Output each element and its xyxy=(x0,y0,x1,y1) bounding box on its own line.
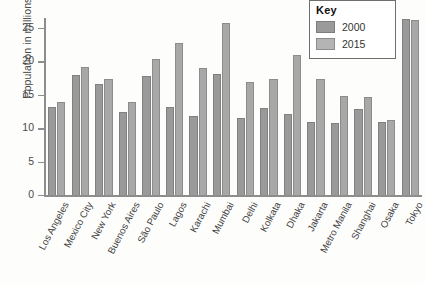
bar-group xyxy=(402,18,419,195)
bar-group xyxy=(189,18,206,195)
bar-jakarta-2015 xyxy=(316,79,324,195)
legend-swatch-2000-icon xyxy=(316,21,335,33)
legend-swatch-2015-icon xyxy=(316,38,335,50)
bar-kolkata-2015 xyxy=(269,79,277,195)
bar-tokyo-2000 xyxy=(402,19,410,195)
x-label-text: Osaka xyxy=(378,200,401,230)
bar-los-angeles-2000 xyxy=(48,107,56,195)
bar-group xyxy=(260,18,277,195)
bar-mumbai-2015 xyxy=(222,23,230,195)
bar-los-angeles-2015 xyxy=(57,102,65,196)
bar-group xyxy=(237,18,254,195)
y-tick-label-25: 25 xyxy=(0,21,34,33)
y-tick-label-10: 10 xyxy=(0,121,34,133)
y-tick-label-5: 5 xyxy=(0,154,34,166)
x-label-text: Jakarta xyxy=(306,200,331,233)
legend: Key 2000 2015 xyxy=(309,0,396,59)
legend-title: Key xyxy=(316,4,390,16)
y-tick-mark-25 xyxy=(38,28,45,29)
bar-group xyxy=(48,18,65,195)
y-tick-mark-15 xyxy=(38,95,45,96)
bar-karachi-2015 xyxy=(199,68,207,195)
legend-item-2000[interactable]: 2000 xyxy=(316,19,390,34)
bar-chart: Population in millions 0510152025 Los An… xyxy=(0,0,425,285)
bar-group xyxy=(213,18,230,195)
y-tick-label-15: 15 xyxy=(0,87,34,99)
y-tick-mark-20 xyxy=(38,61,45,62)
y-tick-label-20: 20 xyxy=(0,54,34,66)
bar-tokyo-2015 xyxy=(411,20,419,195)
legend-label-2015: 2015 xyxy=(342,38,365,50)
legend-label-2000: 2000 xyxy=(342,21,365,33)
x-label-text: Dhaka xyxy=(284,200,307,230)
legend-item-2015[interactable]: 2015 xyxy=(316,36,390,51)
x-label-text: Kolkata xyxy=(258,200,283,234)
x-label-text: Mumbai xyxy=(210,200,236,236)
x-label-text: Tokyo xyxy=(403,200,425,228)
x-label-text: Delhi xyxy=(239,200,259,225)
x-axis-labels: Los AngelesMexico CityNew YorkBuenos Air… xyxy=(45,196,422,285)
x-label-text: Karachi xyxy=(187,200,212,234)
x-label-text: Lagos xyxy=(167,200,189,228)
y-tick-mark-10 xyxy=(38,128,45,129)
bar-group xyxy=(284,18,301,195)
y-tick-label-0: 0 xyxy=(0,188,34,200)
y-tick-mark-0 xyxy=(38,195,45,196)
y-tick-mark-5 xyxy=(38,162,45,163)
